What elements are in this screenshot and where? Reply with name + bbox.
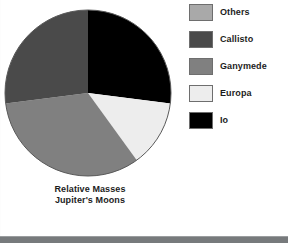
caption-line-2: Jupiter's Moons <box>0 195 180 206</box>
pie-chart-figure: Relative Masses Jupiter's Moons Others C… <box>0 0 288 243</box>
legend-item-io[interactable]: Io <box>189 110 228 130</box>
legend-swatch-ganymede-icon <box>189 58 213 75</box>
legend-swatch-others-icon <box>189 4 213 21</box>
pie-slice-io[interactable] <box>88 10 171 103</box>
window-bottom-bar <box>0 236 288 243</box>
legend-label-ganymede: Ganymede <box>220 61 267 71</box>
legend-label-europa: Europa <box>220 88 252 98</box>
pie-graphic <box>4 9 172 177</box>
window-bottom-bar-highlight <box>0 236 288 237</box>
legend-label-others: Others <box>220 7 250 17</box>
legend-swatch-io-icon <box>189 112 213 129</box>
legend: Others Callisto Ganymede Europa Io <box>189 2 288 138</box>
pie-slice-callisto[interactable] <box>5 10 88 103</box>
caption-line-1: Relative Masses <box>0 184 180 195</box>
legend-item-ganymede[interactable]: Ganymede <box>189 56 267 76</box>
pie-svg <box>4 9 172 177</box>
chart-area: Relative Masses Jupiter's Moons <box>0 0 185 215</box>
pie-slices <box>5 10 171 176</box>
legend-item-callisto[interactable]: Callisto <box>189 29 253 49</box>
chart-caption: Relative Masses Jupiter's Moons <box>0 184 180 206</box>
legend-swatch-europa-icon <box>189 85 213 102</box>
legend-label-io: Io <box>220 115 228 125</box>
legend-item-others[interactable]: Others <box>189 2 250 22</box>
legend-swatch-callisto-icon <box>189 31 213 48</box>
legend-item-europa[interactable]: Europa <box>189 83 252 103</box>
legend-label-callisto: Callisto <box>220 34 253 44</box>
